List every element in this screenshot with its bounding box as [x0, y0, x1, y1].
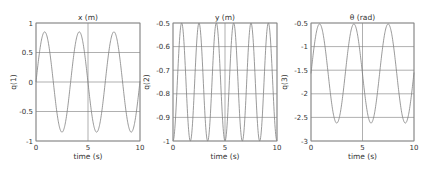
- subplot-title: y (m): [215, 13, 235, 22]
- subplot-x: -1-0.500.510510 x (m) time (s) q(1): [9, 13, 144, 161]
- y-tick-label: 1: [29, 20, 33, 28]
- y-axis-label: q(2): [142, 74, 151, 89]
- x-axis-label: time (s): [210, 152, 239, 161]
- y-tick-label: -2: [301, 90, 308, 98]
- y-tick-label: -1.5: [294, 67, 308, 75]
- x-axis-label: time (s): [348, 152, 377, 161]
- subplot-y: -1-0.9-0.8-0.7-0.6-0.50510 y (m) time (s…: [142, 13, 281, 161]
- y-tick-label: -0.9: [156, 114, 170, 122]
- y-tick-label: -0.8: [156, 90, 170, 98]
- x-tick-label: 5: [360, 144, 364, 152]
- y-tick-label: -1: [301, 43, 308, 51]
- y-tick-label: -1: [26, 138, 33, 146]
- y-axis-label: q(1): [9, 74, 18, 89]
- subplot-theta: -3-2.5-2-1.5-1-0.50510 θ (rad) time (s) …: [280, 13, 418, 161]
- y-tick-label: -0.7: [156, 67, 170, 75]
- y-tick-label: -1: [163, 138, 170, 146]
- y-tick-label: -0.6: [156, 43, 170, 51]
- y-tick-label: -0.5: [294, 20, 308, 28]
- subplot-title: x (m): [78, 13, 98, 22]
- x-axis-label: time (s): [73, 152, 102, 161]
- x-tick-label: 10: [136, 144, 145, 152]
- x-tick-label: 10: [273, 144, 282, 152]
- figure: -1-0.500.510510 x (m) time (s) q(1) -1-0…: [0, 0, 429, 171]
- x-tick-label: 0: [309, 144, 313, 152]
- x-tick-label: 0: [34, 144, 38, 152]
- x-tick-label: 10: [410, 144, 419, 152]
- y-tick-label: 0: [29, 79, 33, 87]
- x-tick-label: 5: [86, 144, 90, 152]
- y-tick-label: -2.5: [294, 114, 308, 122]
- x-tick-label: 5: [223, 144, 227, 152]
- y-tick-label: -0.5: [156, 20, 170, 28]
- y-tick-label: -0.5: [19, 108, 33, 116]
- subplot-title: θ (rad): [350, 13, 375, 22]
- y-tick-label: -3: [301, 138, 308, 146]
- y-axis-label: q(3): [280, 74, 289, 89]
- x-tick-label: 0: [171, 144, 175, 152]
- y-tick-label: 0.5: [22, 49, 33, 57]
